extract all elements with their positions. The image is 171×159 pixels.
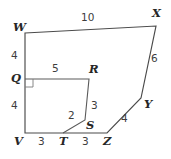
vertex-label-t: T: [59, 136, 68, 148]
length-qr: 5: [52, 63, 59, 74]
inner-polyline-qrst: [25, 79, 89, 133]
length-tv: 3: [38, 136, 45, 147]
length-qw: 4: [11, 50, 18, 61]
length-xy: 6: [151, 53, 158, 64]
length-zt: 3: [82, 136, 89, 147]
vertex-label-y: Y: [144, 99, 152, 111]
vertex-label-v: V: [14, 136, 23, 148]
right-angle-group: [25, 79, 33, 87]
vertex-label-w: W: [13, 22, 26, 34]
length-rs: 3: [91, 100, 98, 111]
vertex-label-q: Q: [11, 73, 21, 85]
geometry-figure: WXYZVQRST 10643344532: [0, 0, 171, 159]
length-st: 2: [68, 110, 75, 121]
vertex-label-z: Z: [103, 136, 111, 148]
vertex-label-r: R: [89, 64, 99, 76]
vertex-label-s: S: [86, 120, 94, 132]
length-wx: 10: [81, 12, 94, 23]
inner-polyline-group: [25, 79, 89, 133]
vertex-label-x: X: [152, 8, 161, 20]
length-yz: 4: [121, 113, 128, 124]
length-vq: 4: [11, 100, 18, 111]
right-angle-marker-icon: [25, 79, 33, 87]
